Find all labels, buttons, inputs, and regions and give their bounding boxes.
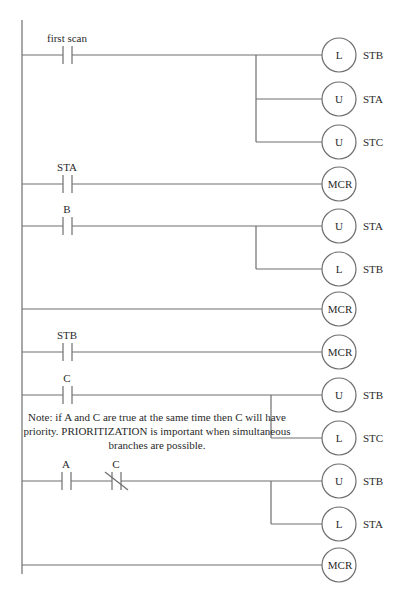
coil-l-stb: LSTB [322,252,383,286]
contact-first-scan: first scan [22,32,88,64]
coil-tag: STC [363,432,383,444]
rung-1: first scanLSTBUSTAUSTC [22,32,383,159]
ladder-diagram: first scanLSTBUSTAUSTCSTAMCRBUSTALSTBMCR… [0,0,403,602]
coil-letter: L [336,518,343,530]
coil-tag: STA [363,518,383,530]
coil-u-stc: USTC [322,125,383,159]
coil-tag: STB [363,475,383,487]
contact-b: B [22,203,72,235]
coil-l-stc: LSTC [322,421,383,455]
coil-letter: MCR [328,559,353,571]
coil-letter: U [335,220,343,232]
contact-label: STA [57,161,77,173]
coil-tag: STA [363,93,383,105]
rung-2: STAMCR [22,161,356,201]
coil-letter: MCR [328,346,353,358]
coil-u-stb: USTB [322,378,383,412]
coil-letter: L [336,49,343,61]
coil-l-sta: LSTA [322,507,383,541]
contact-a: A [22,458,71,490]
coil-letter: U [335,389,343,401]
coil-u-sta: USTA [322,82,383,116]
coil-letter: U [335,93,343,105]
contact-label: C [63,372,70,384]
coil-l-stb: LSTB [322,38,383,72]
coil-letter: L [336,432,343,444]
mcr-coil: MCR [322,167,356,201]
coil-letter: L [336,263,343,275]
contact-label: A [62,458,70,470]
contact-c: C [71,458,128,490]
contact-c: C [22,372,72,404]
coil-u-stb: USTB [322,464,383,498]
rung-5: STBMCR [22,329,356,369]
coil-letter: MCR [328,303,353,315]
coil-tag: STA [363,220,383,232]
ladder-diagram-canvas: first scanLSTBUSTAUSTCSTAMCRBUSTALSTBMCR… [0,0,403,602]
contact-label: C [112,458,119,470]
contact-label: STB [57,329,77,341]
mcr-coil: MCR [322,335,356,369]
coil-tag: STB [363,49,383,61]
coil-letter: U [335,475,343,487]
coil-tag: STB [363,263,383,275]
contact-sta: STA [22,161,77,193]
rung-7: ACUSTBLSTA [22,458,383,541]
contact-stb: STB [22,329,77,361]
coil-letter: U [335,136,343,148]
rung-4: MCR [22,292,356,326]
coil-letter: MCR [328,178,353,190]
coil-tag: STB [363,389,383,401]
mcr-coil: MCR [322,548,356,582]
mcr-coil: MCR [322,292,356,326]
contact-label: B [63,203,70,215]
coil-u-sta: USTA [322,209,383,243]
note-text: Note: if A and C are true at the same ti… [22,410,292,452]
rung-3: BUSTALSTB [22,203,383,286]
contact-label: first scan [47,32,88,44]
coil-tag: STC [363,136,383,148]
rung-8: MCR [22,548,356,582]
